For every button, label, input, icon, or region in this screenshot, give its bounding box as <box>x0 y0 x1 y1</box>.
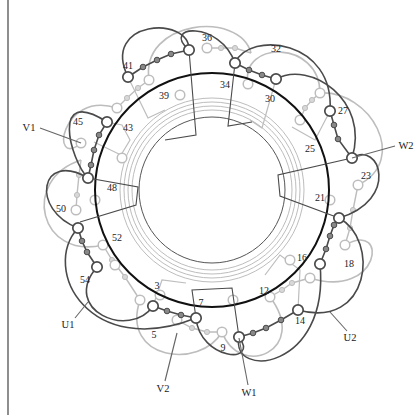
guide-ring <box>128 106 296 274</box>
terminal-label: V1 <box>23 122 36 133</box>
slot-label: 12 <box>259 285 269 296</box>
chain-bead <box>289 280 294 285</box>
coil-node <box>293 305 303 315</box>
coil-chain <box>239 310 298 337</box>
coil-end-arc <box>148 27 251 80</box>
coil-chain <box>128 50 189 77</box>
chain-bead <box>135 85 140 90</box>
chain-bead <box>124 95 129 100</box>
chain-bead <box>335 136 341 142</box>
coil-node <box>340 240 350 250</box>
chain-bead <box>279 287 284 292</box>
coil-node <box>135 295 145 305</box>
main-ring <box>95 73 329 307</box>
winding-diagram: 3632413439302745432523482150521618543127… <box>0 0 415 415</box>
coil-node <box>175 90 185 100</box>
slot-label: 48 <box>107 182 117 193</box>
chain-bead <box>154 57 160 63</box>
slot-label: 18 <box>344 258 354 269</box>
chain-bead <box>327 233 333 239</box>
coil-end-arc <box>86 267 153 321</box>
coil-node <box>102 117 112 127</box>
chain-bead <box>309 97 314 102</box>
chain-bead <box>84 249 90 255</box>
coil-node <box>315 259 325 269</box>
chain-bead <box>218 45 223 50</box>
chain-bead <box>259 72 265 78</box>
coil-node <box>117 153 127 163</box>
coil-node <box>305 273 315 283</box>
chain-bead <box>91 147 97 153</box>
coil-node <box>71 205 81 215</box>
coil-node <box>325 195 335 205</box>
slot-label: 41 <box>123 60 133 71</box>
chain-bead <box>122 274 127 279</box>
coil-node <box>144 75 154 85</box>
terminal-lead <box>40 128 81 143</box>
light-coil-brackets <box>94 77 330 310</box>
slot-label: 39 <box>159 90 169 101</box>
coil-node <box>285 255 295 265</box>
chain-bead <box>302 105 307 110</box>
chain-bead <box>164 308 170 314</box>
inner-ring <box>139 117 285 263</box>
chain-bead <box>189 325 194 330</box>
slot-label: 7 <box>199 297 204 308</box>
coil-node <box>123 72 133 82</box>
chain-bead <box>232 45 237 50</box>
slot-label: 45 <box>73 116 83 127</box>
chain-bead <box>140 64 146 70</box>
slot-label: 21 <box>315 192 325 203</box>
guide-ring <box>132 110 292 270</box>
coil-node <box>202 43 212 53</box>
dark-coil-chains <box>78 50 352 337</box>
dark-coil-brackets <box>80 50 352 337</box>
slot-label: 30 <box>265 93 275 104</box>
slot-label: 54 <box>80 274 90 285</box>
guide-rings <box>120 98 304 282</box>
coil-node <box>325 106 335 116</box>
terminal-label: U2 <box>344 332 357 343</box>
terminal-label: V2 <box>157 383 170 394</box>
slot-label: 23 <box>361 170 371 181</box>
coil-node <box>217 327 227 337</box>
slot-label: 50 <box>56 203 66 214</box>
coil-node <box>184 45 194 55</box>
coil-node <box>353 180 363 190</box>
coil-node <box>148 301 158 311</box>
terminal-label: W2 <box>398 140 413 151</box>
coil-node <box>191 313 201 323</box>
terminal-lead <box>330 312 347 331</box>
chain-bead <box>178 312 184 318</box>
slot-label: 36 <box>202 32 212 43</box>
guide-ring <box>124 102 300 278</box>
slot-label: 3 <box>155 280 160 291</box>
coil-node <box>92 262 102 272</box>
slot-label: 16 <box>297 252 307 263</box>
slot-label: 52 <box>112 232 122 243</box>
coil-node <box>230 58 240 68</box>
terminal-lead <box>352 146 395 158</box>
coil-node <box>315 88 325 98</box>
chain-bead <box>246 67 252 73</box>
terminal-lead <box>75 302 88 318</box>
chain-bead <box>263 325 269 331</box>
slot-label: 27 <box>338 105 348 116</box>
coil-node <box>334 213 344 223</box>
chain-bead <box>74 192 79 197</box>
chain-bead <box>79 238 85 244</box>
coil-node <box>271 74 281 84</box>
slot-label: 43 <box>123 122 133 133</box>
slot-label: 25 <box>305 143 315 154</box>
terminal-label: W1 <box>241 387 256 398</box>
coil-node <box>112 103 122 113</box>
chain-bead <box>323 246 329 252</box>
terminal-lead <box>165 333 177 381</box>
coil-node <box>83 173 93 183</box>
chain-bead <box>88 162 94 168</box>
slot-label: 5 <box>152 329 157 340</box>
chain-bead <box>331 122 337 128</box>
slot-label: 34 <box>220 79 230 90</box>
slot-labels: 3632413439302745432523482150521618543127… <box>56 32 371 353</box>
chain-bead <box>278 317 284 323</box>
